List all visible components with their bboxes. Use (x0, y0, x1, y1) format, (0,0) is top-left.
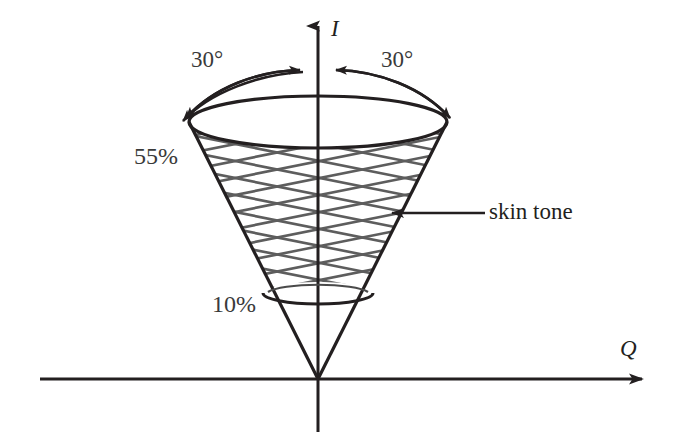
cross-hatch-fill (120, 70, 520, 337)
skin-tone-callout-label: skin tone (489, 199, 573, 225)
angle-label-right: 30° (381, 47, 413, 73)
outer-saturation-label: 55% (134, 143, 178, 170)
i-axis-label: I (331, 16, 339, 42)
skin-tone-cone-diagram (0, 0, 675, 447)
q-axis-label: Q (620, 336, 637, 362)
figure-canvas: I Q 30° 30° 55% 10% skin tone (0, 0, 675, 447)
angle-label-left: 30° (191, 47, 223, 73)
inner-saturation-label: 10% (212, 291, 256, 318)
